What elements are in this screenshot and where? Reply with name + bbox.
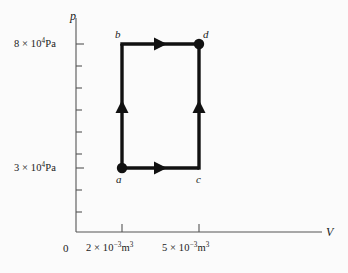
- x-axis-ticks: [122, 224, 199, 232]
- y-tick-label-80000: 8 × 104Pa: [14, 39, 56, 50]
- point-label-b: b: [115, 29, 121, 40]
- point-label-c: c: [196, 174, 201, 185]
- y-tick-label-80000-unit: Pa: [45, 38, 56, 49]
- y-tick-label-30000: 3 × 104Pa: [14, 163, 56, 174]
- pv-diagram-figure: p V 8 × 104Pa 3 × 104Pa 2 × 10−3m3 5 × 1…: [0, 0, 348, 273]
- x-tick-label-0002-unit: m: [121, 242, 129, 253]
- arrow-right-bottom-branch: [154, 162, 167, 175]
- x-tick-label-0002: 2 × 10−3m3: [86, 243, 133, 254]
- x-tick-label-0005-unit-exponent: 3: [206, 241, 210, 249]
- x-axis-label: V: [326, 226, 333, 238]
- x-tick-label-0002-unit-exponent: 3: [130, 241, 134, 249]
- direction-arrows: [116, 38, 206, 175]
- origin-label: 0: [63, 243, 69, 254]
- y-tick-label-30000-mantissa: 3 × 10: [14, 162, 42, 173]
- x-tick-label-0002-mantissa: 2 × 10: [86, 242, 114, 253]
- point-label-d: d: [203, 29, 209, 40]
- point-marker-a: [117, 163, 127, 173]
- arrow-up-left-branch: [116, 100, 129, 113]
- y-tick-label-80000-mantissa: 8 × 10: [14, 38, 42, 49]
- point-marker-d: [194, 39, 204, 49]
- x-tick-label-0005: 5 × 10−3m3: [162, 243, 209, 254]
- point-label-a: a: [116, 174, 122, 185]
- arrow-up-right-branch: [193, 100, 206, 113]
- state-point-markers: [117, 39, 204, 173]
- arrow-right-top-branch: [154, 38, 167, 51]
- y-axis-label: p: [70, 10, 76, 22]
- y-tick-label-30000-unit: Pa: [45, 162, 56, 173]
- y-axis-ticks: [76, 44, 84, 212]
- x-tick-label-0005-mantissa: 5 × 10: [162, 242, 190, 253]
- x-tick-label-0005-unit: m: [197, 242, 205, 253]
- process-path: [120, 44, 199, 170]
